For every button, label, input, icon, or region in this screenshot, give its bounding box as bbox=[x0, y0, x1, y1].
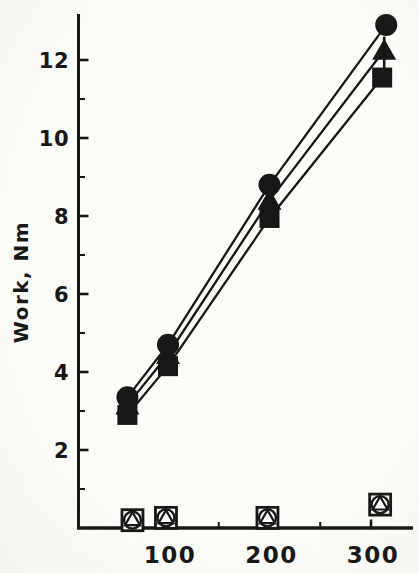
x-tick-label-200: 200 bbox=[245, 542, 298, 568]
marker-filled-circle-0 bbox=[116, 386, 138, 408]
y-tick-label-6: 6 bbox=[54, 283, 69, 307]
work-vs-velocity-chart: Work, Nm 24681012100200300 bbox=[0, 0, 419, 573]
scanned-figure-page: Work, Nm 24681012100200300 bbox=[0, 0, 419, 573]
y-tick-label-8: 8 bbox=[54, 205, 69, 229]
marker-filled-square-2 bbox=[260, 208, 280, 228]
marker-filled-circle-2 bbox=[259, 174, 281, 196]
y-tick-label-10: 10 bbox=[39, 127, 69, 151]
marker-filled-circle-1 bbox=[157, 334, 179, 356]
x-tick-label-300: 300 bbox=[347, 542, 400, 568]
marker-filled-triangle-3 bbox=[372, 39, 396, 60]
x-tick-label-100: 100 bbox=[144, 542, 197, 568]
y-tick-label-4: 4 bbox=[54, 361, 69, 385]
marker-filled-square-1 bbox=[158, 356, 178, 376]
y-axis-title: Work, Nm bbox=[9, 221, 33, 343]
y-tick-label-2: 2 bbox=[54, 439, 69, 463]
marker-filled-circle-3 bbox=[375, 14, 397, 36]
marker-filled-square-3 bbox=[372, 68, 392, 88]
y-tick-label-12: 12 bbox=[39, 49, 69, 73]
